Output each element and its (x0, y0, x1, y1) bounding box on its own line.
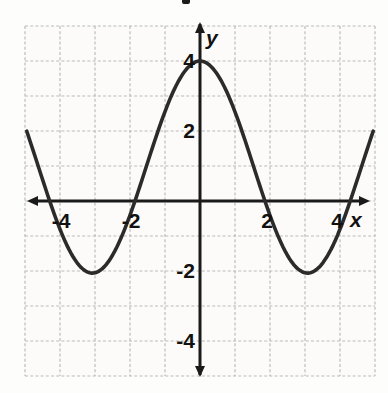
x-tick-label: 4 (331, 209, 343, 232)
x-tick-label: -2 (122, 209, 141, 232)
y-tick-label: -4 (176, 329, 195, 352)
x-tick-label: 2 (261, 209, 273, 232)
y-tick-label: 2 (183, 119, 195, 142)
y-tick-label: -2 (176, 259, 195, 282)
x-axis-label: x (349, 208, 363, 231)
y-axis-label: y (205, 26, 219, 49)
y-tick-label: 4 (183, 49, 195, 72)
function-graph: -4-22442-2-4xy (0, 0, 388, 393)
x-tick-label: -4 (52, 209, 71, 232)
graph-figure: -4-22442-2-4xy (0, 0, 388, 393)
